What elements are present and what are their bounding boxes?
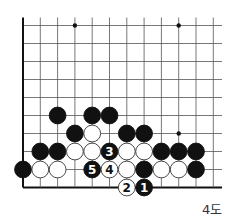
- white-stone-move-4: 4: [101, 161, 118, 178]
- white-stone: [49, 161, 66, 178]
- black-stone: [67, 125, 84, 142]
- white-stone-move-2: 2: [118, 179, 135, 196]
- white-stone: [118, 161, 135, 178]
- move-number: 4: [105, 163, 113, 177]
- black-stone-move-1: 1: [136, 179, 153, 196]
- black-stone: [101, 107, 118, 124]
- star-point-icon: [177, 131, 181, 135]
- black-stone: [136, 125, 153, 142]
- diagram-caption: 4도: [202, 199, 221, 218]
- white-stone: [136, 143, 153, 160]
- star-point-icon: [177, 23, 181, 27]
- white-stone: [67, 143, 84, 160]
- black-stone: [49, 143, 66, 160]
- white-stone: [118, 143, 135, 160]
- white-stone: [153, 161, 170, 178]
- move-number: 2: [123, 181, 131, 195]
- black-stone: [136, 161, 153, 178]
- black-stone: [188, 143, 205, 160]
- black-stone: [118, 125, 135, 142]
- move-number: 5: [88, 163, 96, 177]
- move-number: 3: [105, 145, 113, 159]
- white-stone: [84, 143, 101, 160]
- move-number: 1: [140, 181, 148, 195]
- black-stone: [49, 107, 66, 124]
- white-stone: [170, 161, 187, 178]
- black-stone-move-5: 5: [84, 161, 101, 178]
- white-stone: [32, 161, 49, 178]
- black-stone: [170, 143, 187, 160]
- star-point-icon: [73, 23, 77, 27]
- black-stone: [153, 143, 170, 160]
- black-stone: [84, 107, 101, 124]
- white-stone: [84, 125, 101, 142]
- black-stone-move-3: 3: [101, 143, 118, 160]
- go-board: 35421: [0, 0, 238, 223]
- black-stone: [15, 161, 32, 178]
- black-stone: [188, 161, 205, 178]
- black-stone: [32, 143, 49, 160]
